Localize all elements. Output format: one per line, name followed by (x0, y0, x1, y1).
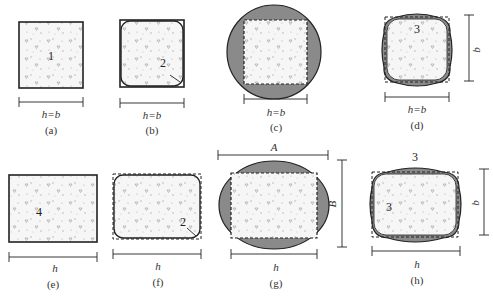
panel-a: 1 h=b (a) (19, 22, 83, 137)
section-diagram: 1 h=b (a) 2 h=b (b) h=b (c) 3 (0, 0, 493, 296)
panel-c: h=b (c) (227, 5, 321, 134)
panel-d: 3 b h=b (d) (382, 14, 482, 132)
panel-caption: (d) (411, 119, 424, 132)
dimension-label: h=b (143, 109, 162, 121)
side-dimension-label: b (470, 47, 482, 53)
section-number: 2 (180, 215, 186, 229)
top-number: 3 (412, 150, 418, 164)
panel-h: 3 3 b h (h) (370, 150, 489, 287)
panel-caption: (e) (47, 278, 60, 291)
dimension-label: h (273, 261, 279, 273)
section-number: 4 (36, 205, 42, 219)
side-dimension-label: b (469, 200, 481, 206)
dimension-label: h (414, 258, 420, 270)
panel-caption: (c) (270, 121, 283, 134)
dimension-label: h (155, 260, 161, 272)
dimension-label: h=b (42, 108, 61, 120)
panel-e: 4 h (e) (9, 175, 97, 291)
panel-caption: (h) (411, 274, 424, 287)
dimension-label: h=b (267, 106, 286, 118)
section-number: 2 (160, 56, 166, 70)
panel-caption: (a) (45, 124, 58, 137)
panel-caption: (b) (146, 124, 159, 137)
dimension-label: h=b (408, 103, 427, 115)
side-dimension-label: B (326, 200, 338, 207)
panel-g: A B h (g) (218, 141, 347, 290)
section-number: 3 (414, 22, 420, 36)
panel-b: 2 h=b (b) (120, 20, 184, 137)
top-dimension-label: A (270, 141, 278, 153)
section-number: 1 (48, 49, 54, 63)
panel-caption: (g) (270, 277, 283, 290)
panel-caption: (f) (153, 276, 164, 289)
side-number: 3 (386, 200, 392, 214)
dimension-label: h (52, 262, 58, 274)
panel-f: 2 h (f) (113, 174, 201, 289)
